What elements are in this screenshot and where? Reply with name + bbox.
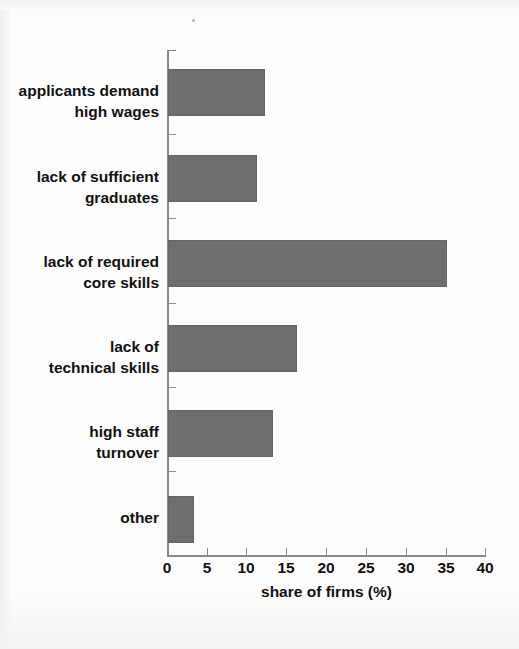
y-axis-tick [168,50,176,51]
x-axis-tick-label: 25 [346,559,386,577]
bar-high-staff-turnover [168,410,273,457]
category-label-line: technical skills [0,357,159,378]
category-label-line: lack of required [0,251,159,272]
x-axis-title: share of firms (%) [167,583,486,601]
x-axis-tick-label: 5 [187,559,227,577]
category-label-line: graduates [0,187,159,208]
category-label-line: lack of sufficient [0,166,159,187]
bar-lack-of-required-core-skills [168,240,447,287]
x-axis-tick [286,548,287,556]
category-label-high-staff-turnover: high staff turnover [0,421,159,463]
y-axis-tick [168,387,176,388]
y-axis-tick [168,218,176,219]
bar-lack-of-technical-skills [168,325,297,372]
x-axis-tick-label: 20 [306,559,346,577]
x-axis-tick-label: 15 [266,559,306,577]
x-axis-tick-label: 35 [426,559,466,577]
x-axis-tick-label: 10 [226,559,266,577]
category-label-applicants-demand-high-wages: applicants demand high wages [0,80,159,122]
category-label-other: other [0,507,159,528]
bar-applicants-demand-high-wages [168,69,265,116]
x-axis-tick-label: 30 [386,559,426,577]
category-label-line: high staff [0,421,159,442]
x-axis-tick [167,548,168,556]
category-label-line: high wages [0,101,159,122]
x-axis-tick [366,548,367,556]
chart-page: applicants demand high wages lack of suf… [0,0,519,649]
category-label-line: other [0,507,159,528]
bar-lack-of-sufficient-graduates [168,155,257,202]
y-axis-tick [168,303,176,304]
x-axis-tick [246,548,247,556]
y-axis-tick [168,134,176,135]
x-axis-tick [326,548,327,556]
y-axis-tick [168,471,176,472]
bar-other [168,496,194,543]
x-axis-tick [406,548,407,556]
x-axis-tick [485,548,486,556]
x-axis-tick-label: 40 [465,559,505,577]
category-label-line: core skills [0,272,159,293]
x-axis-tick-label: 0 [147,559,187,577]
category-label-lack-of-sufficient-graduates: lack of sufficient graduates [0,166,159,208]
category-label-lack-of-technical-skills: lack of technical skills [0,336,159,378]
category-label-line: lack of [0,336,159,357]
category-label-lack-of-required-core-skills: lack of required core skills [0,251,159,293]
category-label-line: applicants demand [0,80,159,101]
x-axis-tick [207,548,208,556]
category-label-line: turnover [0,442,159,463]
x-axis-tick [446,548,447,556]
horizontal-bar-chart: applicants demand high wages lack of suf… [0,0,519,649]
